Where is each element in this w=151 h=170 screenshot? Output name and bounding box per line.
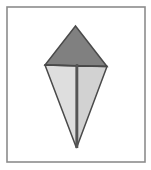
figure-container bbox=[0, 0, 151, 170]
kite-diagram bbox=[0, 0, 151, 170]
